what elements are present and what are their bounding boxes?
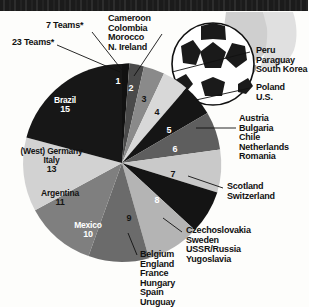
leader-scotland [188,176,223,188]
slice-label-9: 9 [124,214,134,223]
leader-czech [163,218,182,232]
leader-belgium [128,233,137,255]
leader-poland [196,88,250,100]
slice-label-mexico-value: 10 [63,230,113,239]
callout-group-cameroon: Cameroon Colombia Morocco N. Ireland [108,14,151,52]
slice-label-argentina-value: 11 [30,198,90,207]
slice-label-4: 4 [152,108,162,117]
slice-label-1: 1 [113,77,123,86]
slice-label-7: 7 [168,170,178,179]
callout-group-austria: Austria Bulgaria Chile Netherlands Roman… [239,114,289,162]
callout-23-teams: 23 Teams* [12,38,54,48]
slice-label-brazil-value: 15 [40,105,90,114]
slice-label-3: 3 [139,95,149,104]
leader-peru [172,52,250,72]
slice-label-germany-value: 13 [9,165,94,174]
callout-group-scotland: Scotland Switzerland [227,182,275,201]
slice-label-5: 5 [164,126,174,135]
slice-label-2: 2 [126,84,136,93]
callout-group-czech: Czechoslovakia Sweden USSR/Russia Yugosl… [186,226,251,264]
callout-group-poland: Poland U.S. [256,83,285,102]
callout-group-peru: Peru Paraguay South Korea [256,46,307,75]
slice-label-8: 8 [152,196,162,205]
callout-7-teams: 7 Teams* [46,21,83,31]
slice-label-6: 6 [170,145,180,154]
callout-group-belgium: Belgium England France Hungary Spain Uru… [140,250,175,307]
